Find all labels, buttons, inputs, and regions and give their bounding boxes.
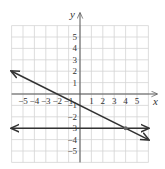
intersection-point (124, 126, 128, 130)
y-axis-label: y (69, 8, 75, 20)
y-tick-label: 3 (73, 55, 78, 65)
y-tick-label: 1 (73, 78, 78, 88)
y-tick-label: 5 (73, 32, 78, 42)
x-tick-label: −5 (18, 96, 28, 106)
y-tick-label: 4 (73, 43, 78, 53)
x-tick-label: 1 (89, 96, 94, 106)
x-tick-label: 3 (112, 96, 117, 106)
y-tick-label: 2 (73, 66, 78, 76)
x-tick-label: −2 (52, 96, 62, 106)
y-tick-label: −5 (67, 146, 77, 156)
coordinate-plane: −5−4−3−2−11234554321−1−2−3−4−5 x y (0, 0, 165, 169)
x-axis-label: x (152, 95, 158, 107)
x-tick-label: 5 (135, 96, 140, 106)
x-tick-label: 4 (123, 96, 128, 106)
y-tick-label: −2 (67, 112, 77, 122)
x-tick-label: 2 (101, 96, 106, 106)
y-tick-label: −4 (67, 135, 77, 145)
x-tick-label: −3 (41, 96, 51, 106)
x-tick-label: −4 (30, 96, 40, 106)
